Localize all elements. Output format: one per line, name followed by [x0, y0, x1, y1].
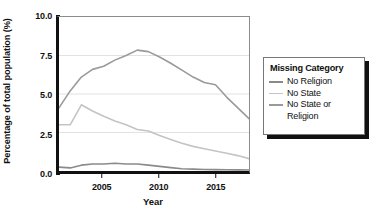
legend-line-swatch: [269, 88, 283, 100]
x-tick-mark: [215, 174, 217, 178]
x-axis-ticks: 200520102015: [56, 174, 250, 198]
series-line: [59, 163, 249, 170]
legend-item-label-line1: No State or: [287, 99, 331, 111]
y-tick-label: 5.0: [8, 90, 52, 100]
plot-area: [56, 16, 250, 174]
legend-item-label: No State: [287, 88, 321, 100]
x-tick-label: 2015: [206, 182, 225, 192]
legend-line-swatch: [269, 99, 283, 111]
y-tick-label: 7.5: [8, 51, 52, 61]
x-axis-title: Year: [56, 196, 250, 207]
legend-title: Missing Category: [270, 63, 359, 73]
series-plot: [59, 17, 249, 171]
legend-item-label: No State orReligion: [287, 99, 331, 122]
legend-line-swatch: [269, 76, 283, 88]
legend-items: No ReligionNo StateNo State orReligion: [269, 76, 359, 122]
legend-item[interactable]: No State: [269, 88, 359, 100]
legend-item[interactable]: No Religion: [269, 76, 359, 88]
legend-item-label: No Religion: [287, 76, 332, 88]
x-tick-mark: [158, 174, 160, 178]
y-tick-label: 10.0: [8, 11, 52, 21]
chart-figure: Percentage of total population (%) 0.02.…: [0, 0, 373, 222]
y-axis-ticks: 0.02.55.07.510.0: [4, 16, 52, 174]
legend-item[interactable]: No State orReligion: [269, 99, 359, 122]
legend-item-label-line2: Religion: [287, 111, 331, 123]
x-tick-label: 2010: [149, 182, 168, 192]
legend-box: Missing Category No ReligionNo StateNo S…: [263, 57, 365, 135]
x-tick-label: 2005: [92, 182, 111, 192]
y-tick-label: 2.5: [8, 130, 52, 140]
y-tick-label: 0.0: [8, 169, 52, 179]
series-line: [59, 105, 249, 159]
x-tick-mark: [101, 174, 103, 178]
